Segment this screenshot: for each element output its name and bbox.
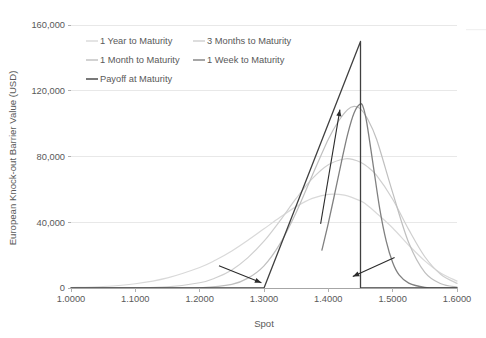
y-tick-label-2: 80,000 [37,152,65,162]
chart-container: 1.00001.10001.20001.30001.40001.50001.60… [0,0,486,338]
legend-label-1: 3 Months to Maturity [207,36,292,46]
y-tick-label-0: 0 [60,283,65,293]
corner-artifact [466,29,486,30]
legend-label-2: 1 Month to Maturity [100,55,180,65]
y-tick-label-4: 160,000 [31,20,65,30]
y-tick-label-3: 120,000 [31,86,65,96]
x-tick-label-5: 1.5000 [378,294,406,304]
x-tick-label-3: 1.3000 [250,294,278,304]
y-tick-label-1: 40,000 [37,218,65,228]
x-tick-label-6: 1.6000 [443,294,471,304]
x-tick-label-1: 1.1000 [121,294,149,304]
x-tick-label-4: 1.4000 [314,294,342,304]
chart-canvas: 1.00001.10001.20001.30001.40001.50001.60… [0,0,486,338]
x-axis-title: Spot [254,318,274,329]
legend-label-3: 1 Week to Maturity [207,55,285,65]
legend-label-4: Payoff at Maturity [100,74,173,84]
x-tick-label-0: 1.0000 [57,294,85,304]
x-tick-label-2: 1.2000 [185,294,213,304]
y-axis-title: European Knock-out Barrier Value (USD) [7,71,18,246]
legend-label-0: 1 Year to Maturity [100,36,173,46]
